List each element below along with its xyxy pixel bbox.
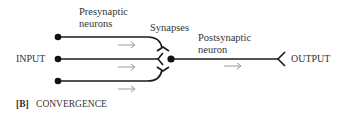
presynaptic-soma-bottom (55, 78, 62, 85)
caption-tag: [B] (16, 99, 29, 109)
synapse-fork-top (157, 47, 169, 51)
presynaptic-axon-bottom (58, 70, 162, 81)
output-terminal (278, 52, 285, 66)
arrow-icon (118, 64, 135, 70)
postsynaptic-soma (167, 55, 174, 62)
postsynaptic-label-line2: neuron (198, 44, 227, 56)
caption-text: CONVERGENCE (36, 99, 107, 109)
presynaptic-soma-top (55, 34, 62, 41)
presynaptic-label-line2: neurons (79, 18, 112, 30)
arrow-icon (118, 86, 135, 92)
input-label: INPUT (16, 53, 45, 65)
arrow-icon (224, 63, 241, 69)
presynaptic-axon-top (58, 37, 162, 48)
presynaptic-soma-middle (55, 56, 62, 63)
output-label: OUTPUT (291, 53, 330, 65)
caption: [B] CONVERGENCE (16, 98, 107, 110)
synapses-label: Synapses (150, 22, 189, 34)
presynaptic-label-line1: Presynaptic (79, 6, 128, 18)
synapse-fork-bottom (157, 67, 169, 71)
postsynaptic-label-line1: Postsynaptic (198, 32, 251, 44)
arrow-icon (118, 42, 135, 48)
synapse-fork-middle (158, 53, 163, 65)
